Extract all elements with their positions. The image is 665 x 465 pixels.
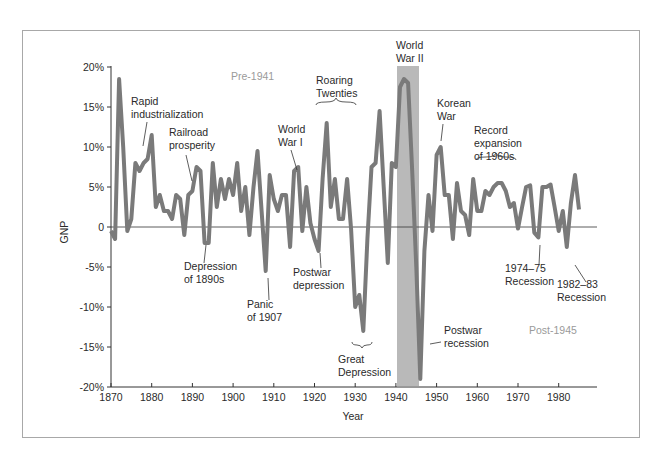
x-tick-label: 1870 — [99, 391, 123, 403]
x-tick-label: 1960 — [466, 391, 490, 403]
annotation-postwar-recession: recession — [444, 337, 489, 349]
y-axis-label: GNP — [58, 221, 70, 244]
annotation-korean-war: War — [437, 110, 456, 122]
annotation-panic-1907: of 1907 — [247, 311, 282, 323]
annotation-postwar-recession: Postwar — [444, 324, 482, 336]
annotation-railroad: Railroad — [169, 126, 208, 138]
annotation-record-expansion: of 1960s — [474, 150, 514, 162]
y-tick-label: -5% — [85, 261, 104, 273]
annotation-postwar-depression: depression — [293, 279, 345, 291]
annotation-great-depression: Great — [338, 353, 364, 365]
y-tick-label: 5% — [89, 181, 104, 193]
annotation-roaring-twenties: Twenties — [316, 87, 357, 99]
y-tick-label: 15% — [83, 101, 104, 113]
era-label-post: Post-1945 — [529, 324, 577, 336]
x-tick-label: 1920 — [303, 391, 327, 403]
annotation-great-depression: Depression — [338, 366, 391, 378]
annotation-korean-war: Korean — [437, 97, 471, 109]
x-tick-label: 1910 — [262, 391, 286, 403]
annotation-ww1: War I — [278, 136, 303, 148]
annotation-1982-recession: Recession — [557, 291, 606, 303]
annotation-rapid: industrialization — [131, 108, 204, 120]
x-tick-label: 1940 — [384, 391, 408, 403]
x-tick-label: 1980 — [547, 391, 571, 403]
annotation-depression-1890s: of 1890s — [184, 273, 224, 285]
annotation-ww2: War II — [396, 52, 424, 64]
era-label-pre: Pre-1941 — [231, 70, 274, 82]
x-axis-label: Year — [342, 410, 364, 422]
x-tick-label: 1950 — [425, 391, 449, 403]
annotation-1974-recession: 1974–75 — [505, 262, 546, 274]
annotation-record-expansion: Record — [474, 124, 508, 136]
x-tick-label: 1880 — [140, 391, 164, 403]
gnp-series-line — [111, 79, 579, 379]
annotation-depression-1890s: Depression — [184, 260, 237, 272]
x-tick-label: 1900 — [221, 391, 245, 403]
x-tick-label: 1970 — [506, 391, 530, 403]
gnp-chart: 20%15%10%5%0-5%-10%-15%-20%1870188018901… — [0, 0, 665, 465]
annotation-ww2: World — [396, 39, 423, 51]
annotation-1982-recession: 1982–83 — [557, 278, 598, 290]
x-tick-label: 1930 — [344, 391, 368, 403]
annotation-roaring-twenties: Roaring — [316, 74, 353, 86]
annotation-ww1: World — [278, 123, 305, 135]
y-tick-label: -15% — [79, 341, 104, 353]
annotation-postwar-depression: Postwar — [293, 266, 331, 278]
x-tick-label: 1890 — [181, 391, 205, 403]
annotation-1974-recession: Recession — [505, 275, 554, 287]
y-tick-label: 0 — [98, 221, 104, 233]
annotation-railroad: prosperity — [169, 139, 216, 151]
annotation-rapid: Rapid — [131, 95, 159, 107]
y-tick-label: 20% — [83, 61, 104, 73]
y-tick-label: -10% — [79, 301, 104, 313]
y-tick-label: 10% — [83, 141, 104, 153]
annotation-record-expansion: expansion — [474, 137, 522, 149]
